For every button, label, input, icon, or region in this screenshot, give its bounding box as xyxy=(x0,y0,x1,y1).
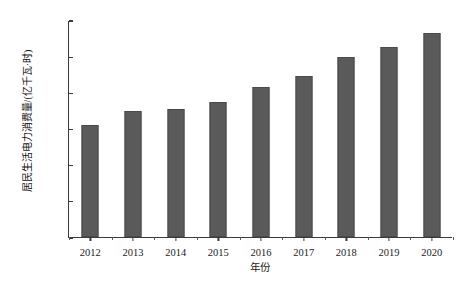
bar xyxy=(82,125,99,237)
x-tick-label: 2017 xyxy=(293,247,314,258)
x-tick-mark xyxy=(431,237,432,241)
y-axis-title: 居民生活电力消费量/(亿千瓦·时) xyxy=(16,4,36,238)
x-tick-label: 2018 xyxy=(336,247,357,258)
x-minor-tick xyxy=(240,237,241,240)
x-axis-category-slot: 2014 xyxy=(154,21,197,237)
x-axis-category-slot: 2019 xyxy=(368,21,411,237)
bar xyxy=(167,109,184,237)
x-tick-mark xyxy=(303,237,304,241)
x-minor-tick xyxy=(69,237,70,240)
x-axis-title: 年份 xyxy=(68,259,452,274)
x-axis-category-slot: 2015 xyxy=(197,21,240,237)
x-minor-tick xyxy=(154,237,155,240)
x-axis-category-slot: 2012 xyxy=(69,21,112,237)
x-minor-tick xyxy=(410,237,411,240)
x-tick-mark xyxy=(90,237,91,241)
x-tick-mark xyxy=(388,237,389,241)
x-axis-category-slot: 2018 xyxy=(325,21,368,237)
x-axis-category-slot: 2016 xyxy=(240,21,283,237)
x-tick-mark xyxy=(218,237,219,241)
x-tick-label: 2016 xyxy=(250,247,271,258)
x-tick-label: 2013 xyxy=(122,247,143,258)
x-minor-tick xyxy=(197,237,198,240)
x-minor-tick xyxy=(112,237,113,240)
x-minor-tick xyxy=(368,237,369,240)
x-tick-mark xyxy=(260,237,261,241)
x-tick-label: 2014 xyxy=(165,247,186,258)
x-tick-label: 2019 xyxy=(378,247,399,258)
bar-chart-figure: 居民生活电力消费量/(亿千瓦·时) 02 0004 0006 0008 0001… xyxy=(0,0,465,284)
bar xyxy=(295,76,312,237)
bar xyxy=(380,47,397,237)
x-tick-mark xyxy=(175,237,176,241)
x-tick-label: 2015 xyxy=(208,247,229,258)
bar xyxy=(124,111,141,237)
x-axis-category-slot: 2017 xyxy=(282,21,325,237)
bar xyxy=(210,102,227,237)
x-axis-category-slot: 2013 xyxy=(112,21,155,237)
x-minor-tick xyxy=(453,237,454,240)
x-minor-tick xyxy=(282,237,283,240)
x-tick-mark xyxy=(132,237,133,241)
bar xyxy=(338,57,355,237)
x-tick-mark xyxy=(346,237,347,241)
x-tick-label: 2012 xyxy=(80,247,101,258)
x-minor-tick xyxy=(325,237,326,240)
x-axis-category-slot: 2020 xyxy=(410,21,453,237)
bar xyxy=(423,33,440,237)
x-tick-label: 2020 xyxy=(421,247,442,258)
plot-area: 02 0004 0006 0008 00010 00012 000 201220… xyxy=(68,21,452,238)
bar xyxy=(252,87,269,237)
